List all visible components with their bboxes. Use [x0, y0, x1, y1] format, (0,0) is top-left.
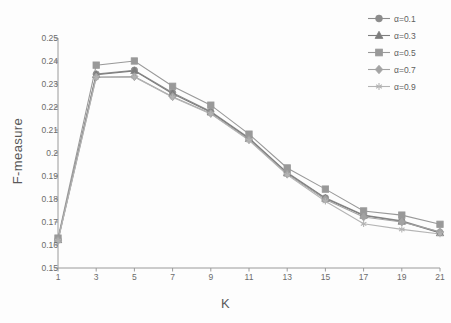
y-axis-title: F-measure: [10, 96, 25, 206]
x-tick-label: 1: [43, 272, 73, 282]
x-tick-label: 3: [81, 272, 111, 282]
legend-item: α=0.7: [366, 61, 448, 78]
chart-figure: 0.150.160.170.180.190.20.210.220.230.240…: [0, 0, 451, 323]
triangle-marker-icon: [366, 27, 392, 44]
y-tick-label: 0.18: [24, 194, 58, 204]
y-tick-label: 0.25: [24, 33, 58, 43]
y-tick-label: 0.22: [24, 102, 58, 112]
chart-legend: α=0.1α=0.3α=0.5α=0.7α=0.9: [366, 10, 448, 95]
y-tick-label: 0.24: [24, 56, 58, 66]
x-tick-label: 13: [272, 272, 302, 282]
x-axis-tick-labels: 13579111315171921: [0, 272, 451, 288]
x-tick-label: 11: [234, 272, 264, 282]
star-marker-icon: [366, 78, 392, 95]
x-tick-label: 7: [158, 272, 188, 282]
y-tick-label: 0.21: [24, 125, 58, 135]
legend-item: α=0.1: [366, 10, 448, 27]
y-tick-label: 0.17: [24, 217, 58, 227]
y-tick-label: 0.2: [24, 148, 58, 158]
square-marker-icon: [366, 44, 392, 61]
x-tick-label: 17: [349, 272, 379, 282]
x-tick-label: 19: [387, 272, 417, 282]
x-axis-title: K: [0, 296, 451, 311]
y-tick-label: 0.16: [24, 240, 58, 250]
x-tick-label: 21: [425, 272, 451, 282]
y-tick-label: 0.23: [24, 79, 58, 89]
legend-label: α=0.1: [392, 14, 416, 24]
legend-item: α=0.3: [366, 27, 448, 44]
x-tick-label: 15: [310, 272, 340, 282]
circle-marker-icon: [366, 10, 392, 27]
x-tick-label: 5: [119, 272, 149, 282]
y-tick-label: 0.19: [24, 171, 58, 181]
legend-label: α=0.3: [392, 31, 416, 41]
diamond-marker-icon: [366, 61, 392, 78]
legend-label: α=0.7: [392, 65, 416, 75]
legend-label: α=0.9: [392, 82, 416, 92]
legend-label: α=0.5: [392, 48, 416, 58]
x-tick-label: 9: [196, 272, 226, 282]
legend-item: α=0.9: [366, 78, 448, 95]
legend-item: α=0.5: [366, 44, 448, 61]
